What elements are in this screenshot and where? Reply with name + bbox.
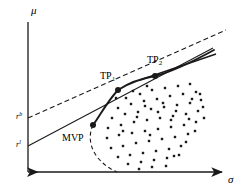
asset-dot <box>122 130 124 132</box>
asset-dot <box>151 166 153 168</box>
asset-dot <box>157 111 159 113</box>
asset-dot <box>166 157 168 159</box>
asset-dot <box>107 127 109 129</box>
lines-group <box>28 30 226 146</box>
asset-dot <box>189 102 191 104</box>
asset-dot <box>162 102 164 104</box>
asset-dot <box>156 98 158 100</box>
asset-dot <box>137 111 139 113</box>
asset-dot <box>153 159 155 161</box>
asset-dot <box>127 163 129 165</box>
asset-dot <box>163 106 165 108</box>
asset-dot <box>148 140 150 142</box>
asset-dot <box>177 85 179 87</box>
asset-dot <box>124 113 126 115</box>
mvp-marker <box>90 122 96 128</box>
asset-dot <box>195 121 197 123</box>
asset-dot <box>111 117 113 119</box>
asset-dot <box>146 119 148 121</box>
asset-dot <box>150 108 152 110</box>
asset-dot <box>203 117 205 119</box>
x-axis-label: σ <box>228 174 233 185</box>
asset-dot <box>129 154 131 156</box>
lending-capital-line <box>28 48 213 146</box>
asset-dot <box>182 93 184 95</box>
asset-dot <box>188 118 190 120</box>
asset-dot <box>176 104 178 106</box>
asset-dot <box>125 97 127 99</box>
asset-dot <box>140 161 142 163</box>
tp2-marker <box>152 73 158 79</box>
asset-dot <box>194 130 196 132</box>
asset-dot <box>159 117 161 119</box>
asset-dot <box>165 165 167 167</box>
asset-dot <box>144 105 146 107</box>
lending-rate-label: rl <box>16 141 21 149</box>
asset-dot <box>170 126 172 128</box>
asset-dot <box>106 137 108 139</box>
asset-dot <box>118 134 120 136</box>
asset-dot <box>172 115 174 117</box>
asset-dot <box>149 134 151 136</box>
asset-dot <box>180 145 182 147</box>
frontier-group <box>90 50 214 172</box>
asset-dot <box>138 168 140 170</box>
asset-dot <box>133 121 135 123</box>
asset-dot <box>173 155 175 157</box>
mean-variance-diagram: μ σ rb rl MVP TP1 TP2 <box>0 0 248 196</box>
asset-dot <box>161 138 163 140</box>
asset-dot <box>143 100 145 102</box>
tp2-label: TP2 <box>147 55 162 65</box>
asset-dot <box>199 93 201 95</box>
asset-dot <box>197 110 199 112</box>
asset-dot <box>122 145 124 147</box>
asset-dot <box>155 150 157 152</box>
asset-dot <box>135 142 137 144</box>
borrowing-capital-line <box>28 30 226 118</box>
inefficient-frontier <box>90 125 117 172</box>
borrowing-rate-label: rb <box>16 113 22 121</box>
asset-scatter-cloud <box>106 83 205 170</box>
asset-dot <box>139 93 141 95</box>
asset-dot <box>151 89 153 91</box>
asset-dot <box>142 152 144 154</box>
asset-dot <box>195 91 197 93</box>
asset-dot <box>164 87 166 89</box>
asset-dot <box>191 98 193 100</box>
asset-dot <box>170 119 172 121</box>
asset-dot <box>131 132 133 134</box>
y-axis-label: μ <box>31 5 37 16</box>
asset-dot <box>174 136 176 138</box>
asset-dot <box>169 95 171 97</box>
asset-dot <box>178 154 180 156</box>
asset-dot <box>146 85 148 87</box>
tp1-label: TP1 <box>100 71 115 81</box>
asset-dot <box>185 141 187 143</box>
asset-dot <box>175 110 177 112</box>
asset-dot <box>130 103 132 105</box>
asset-dot <box>200 99 202 101</box>
asset-dot <box>157 128 159 130</box>
asset-dot <box>187 133 189 135</box>
asset-dot <box>117 156 119 158</box>
asset-dot <box>144 130 146 132</box>
asset-dot <box>202 106 204 108</box>
asset-dot <box>110 147 112 149</box>
tp1-marker <box>115 87 121 93</box>
asset-dot <box>185 113 187 115</box>
asset-dot <box>120 124 122 126</box>
mvp-label: MVP <box>62 133 84 143</box>
asset-dot <box>183 124 185 126</box>
diagram-canvas <box>0 0 248 196</box>
asset-dot <box>168 148 170 150</box>
asset-dot <box>117 107 119 109</box>
asset-dot <box>189 83 191 85</box>
asset-dot <box>136 116 138 118</box>
